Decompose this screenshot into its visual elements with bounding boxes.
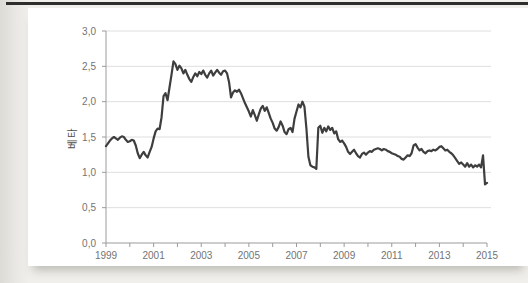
x-tick-label: 2009 xyxy=(324,251,364,261)
scanned-page: 베타 0,00,51,01,52,02,53,0 199920012003200… xyxy=(0,0,528,283)
page-gutter-shading xyxy=(0,0,30,283)
x-tick-label: 2001 xyxy=(134,251,174,261)
y-tick-label: 0,5 xyxy=(66,203,96,213)
y-tick-label: 2,5 xyxy=(66,62,96,72)
beta-series-line xyxy=(106,61,487,184)
y-tick-label: 1,0 xyxy=(66,168,96,178)
x-tick-label: 2005 xyxy=(229,251,269,261)
page-top-rule xyxy=(6,2,528,5)
y-tick-label: 2,0 xyxy=(66,97,96,107)
x-tick-label: 2015 xyxy=(467,251,507,261)
y-tick-label: 0,0 xyxy=(66,239,96,249)
x-tick-label: 1999 xyxy=(86,251,126,261)
x-tick-label: 2007 xyxy=(277,251,317,261)
chart-card: 베타 0,00,51,01,52,02,53,0 199920012003200… xyxy=(28,8,528,266)
x-tick-label: 2013 xyxy=(419,251,459,261)
y-tick-label: 3,0 xyxy=(66,27,96,37)
y-tick-label: 1,5 xyxy=(66,133,96,143)
x-tick-label: 2011 xyxy=(372,251,412,261)
x-tick-label: 2003 xyxy=(181,251,221,261)
beta-line-chart xyxy=(28,8,528,266)
